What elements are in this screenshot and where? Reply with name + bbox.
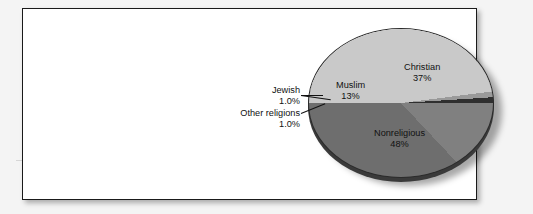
pie-callout-jewish: Jewish 1.0% [238,85,300,107]
pie-label-christian: Christian 37% [404,62,440,84]
pie-chart: Christian 37% Muslim 13% Nonreligious 48… [300,22,515,192]
pie-label-nonreligious: Nonreligious 48% [374,128,425,150]
pie-callout-other-religions: Other religions 1.0% [206,108,300,130]
figure-canvas: Russia and the Eurasian Republics: Relig… [0,0,533,214]
pie-label-muslim: Muslim 13% [336,80,365,102]
pie-disc [308,28,494,178]
pie-slice-all [309,29,493,177]
